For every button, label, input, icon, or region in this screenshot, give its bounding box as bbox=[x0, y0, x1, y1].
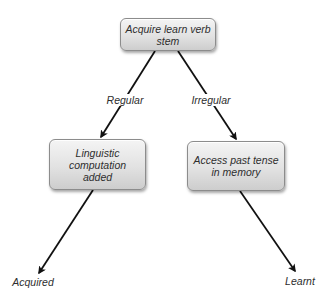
node-root-text: Acquire learn verb stem bbox=[125, 23, 211, 47]
leaf-acquired: Acquired bbox=[10, 276, 55, 288]
leaf-learnt: Learnt bbox=[283, 275, 317, 287]
arrow-to-acquired bbox=[39, 190, 93, 273]
node-acquire-verb-stem: Acquire learn verb stem bbox=[120, 18, 216, 51]
diagram-canvas: Acquire learn verb stem Linguistic compu… bbox=[0, 0, 328, 303]
node-right-text: Access past tense in memory bbox=[192, 154, 280, 178]
node-left-text: Linguistic computation added bbox=[54, 147, 141, 183]
edge-label-regular: Regular bbox=[105, 94, 146, 106]
edge-label-irregular: Irregular bbox=[189, 94, 232, 106]
node-linguistic-computation: Linguistic computation added bbox=[49, 139, 146, 190]
arrow-to-learnt bbox=[240, 191, 295, 271]
node-access-past-tense: Access past tense in memory bbox=[187, 141, 285, 191]
